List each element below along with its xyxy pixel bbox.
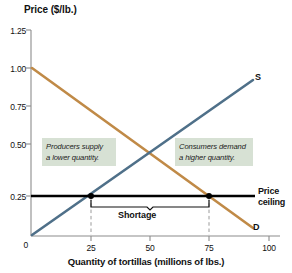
annotation-producers-supply: Producers supply a lower quantity.	[42, 138, 116, 166]
shortage-label: Shortage	[118, 210, 156, 220]
price-ceiling-label-line1: Price	[258, 186, 279, 196]
annotation-consumers-demand: Consumers demand a higher quantity.	[175, 138, 253, 166]
annotation-right-line1: Consumers demand	[179, 142, 246, 151]
supply-demand-chart: Price ($/lb.) 1.25 1.00 0.75 0.50 0.25 0…	[0, 0, 292, 273]
price-ceiling-label: Price ceiling	[258, 186, 285, 209]
price-ceiling-label-line2: ceiling	[258, 197, 285, 207]
supply-curve-label: S	[255, 72, 261, 82]
marker-quantity-supplied	[88, 193, 94, 199]
shortage-bracket	[91, 200, 209, 210]
marker-quantity-demanded	[206, 193, 212, 199]
annotation-left-line2: a lower quantity.	[46, 153, 99, 162]
x-axis-title: Quantity of tortillas (millions of lbs.)	[0, 256, 292, 267]
demand-curve-label: D	[253, 222, 260, 232]
annotation-right-line2: a higher quantity.	[179, 153, 235, 162]
plot-area	[0, 0, 292, 273]
annotation-left-line1: Producers supply	[46, 142, 103, 151]
